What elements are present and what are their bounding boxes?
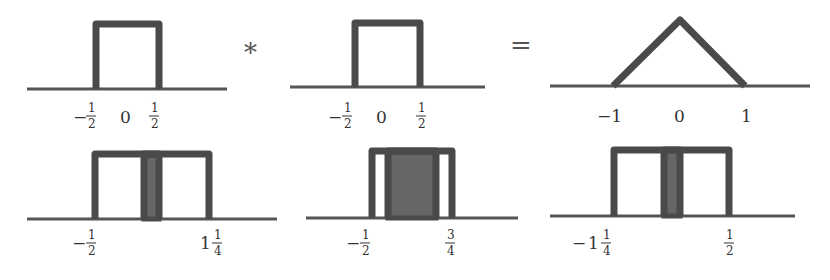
convolution-operator: * — [244, 38, 257, 68]
label-denominator: 4 — [603, 244, 611, 258]
tick-label-one-and-quarter: 1 1 4 — [200, 228, 222, 258]
tick-label-neg-one: −1 — [597, 106, 622, 126]
tick-label-pos-half: 1 2 — [149, 101, 159, 131]
label-numerator: 1 — [418, 101, 426, 115]
tick-label-zero: 0 — [376, 107, 387, 127]
tick-label-zero: 0 — [120, 107, 131, 127]
label-denominator: 4 — [447, 244, 455, 258]
label-numerator: 1 — [88, 228, 96, 242]
label-sign: − — [72, 233, 86, 253]
box-outline — [96, 24, 159, 89]
tick-label-one: 1 — [741, 106, 752, 126]
label-numerator: 1 — [151, 101, 159, 115]
tick-label-pos-half: 1 2 — [416, 101, 426, 131]
overlap-region — [388, 152, 436, 218]
tick-label-neg-half: − 1 2 — [73, 101, 96, 131]
shifted-boxes-3: − 1 1 4 1 2 — [550, 150, 795, 258]
label-denominator: 2 — [344, 117, 352, 131]
label-denominator: 2 — [726, 244, 734, 258]
label-numerator: 1 — [603, 228, 611, 242]
label-numerator: 1 — [362, 228, 370, 242]
label-numerator: 1 — [88, 101, 96, 115]
label-denominator: 2 — [88, 244, 96, 258]
label-sign: − — [73, 107, 87, 127]
label-sign: − — [328, 107, 342, 127]
tick-label-neg-half: − 1 2 — [328, 101, 352, 131]
tick-label-pos-half: 1 2 — [724, 228, 734, 258]
shifted-boxes-2: − 1 2 3 4 — [306, 151, 518, 258]
label-numerator: 3 — [447, 228, 455, 242]
tick-label-zero: 0 — [674, 106, 685, 126]
box-outline — [355, 23, 420, 87]
shifted-boxes-1: − 1 2 1 1 4 — [27, 154, 277, 258]
label-denominator: 2 — [151, 117, 159, 131]
tick-label-neg-half: − 1 2 — [72, 228, 96, 258]
label-numerator: 1 — [726, 228, 734, 242]
triangle-function: −1 0 1 — [550, 20, 810, 126]
equals-operator: = — [510, 30, 532, 60]
label-denominator: 2 — [362, 244, 370, 258]
label-denominator: 4 — [214, 244, 222, 258]
tick-label-neg-half: − 1 2 — [346, 228, 370, 258]
box-function-2: − 1 2 0 1 2 — [290, 23, 485, 131]
convolution-diagram: − 1 2 0 1 2 * − 1 2 0 1 2 = — [0, 0, 830, 280]
label-whole: 1 — [588, 233, 599, 253]
label-sign: − — [346, 233, 360, 253]
tick-label-three-quarters: 3 4 — [445, 228, 455, 258]
label-numerator: 1 — [344, 101, 352, 115]
label-whole: 1 — [200, 233, 211, 253]
triangle-outline — [613, 20, 745, 86]
tick-label-neg-one-and-quarter: − 1 1 4 — [572, 228, 611, 258]
box-function-1: − 1 2 0 1 2 — [27, 24, 227, 131]
label-numerator: 1 — [214, 228, 222, 242]
label-sign: − — [572, 233, 586, 253]
label-denominator: 2 — [88, 117, 96, 131]
label-denominator: 2 — [418, 117, 426, 131]
